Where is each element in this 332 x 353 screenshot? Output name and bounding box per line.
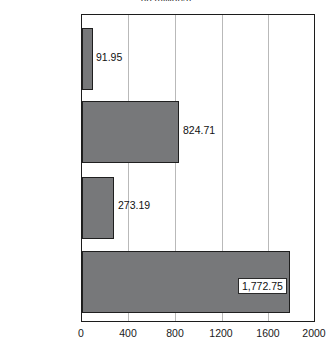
xtick-label-1600: 1600 [256, 327, 279, 339]
xtick-label-400: 400 [119, 327, 137, 339]
value-label-upper-middle-income-countries: 1,772.75 [238, 278, 287, 294]
xtick-label-2000: 2000 [302, 327, 325, 339]
value-label-low-middle-income-countries: 273.19 [116, 199, 152, 211]
xtick-label-800: 800 [166, 327, 184, 339]
bar-chart: (in millions) Least developed countries … [0, 0, 332, 353]
chart-title: (in millions) [0, 0, 332, 1]
bar-least-developed-countries[interactable] [82, 28, 93, 90]
bar-low-middle-income-countries[interactable] [82, 177, 114, 239]
value-label-least-developed-countries: 91.95 [94, 51, 124, 63]
bar-other-low-income-countries[interactable] [82, 101, 179, 163]
value-label-other-low-income-countries: 824.71 [181, 124, 217, 136]
xtick-label-0: 0 [78, 327, 84, 339]
xtick-label-1200: 1200 [209, 327, 232, 339]
